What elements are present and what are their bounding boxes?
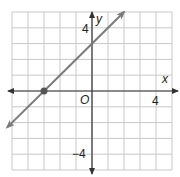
line-segment-lower (7, 70, 65, 128)
x-intercept-point (41, 88, 48, 95)
plotted-line (7, 12, 124, 127)
line-segment-upper (66, 12, 124, 70)
x-axis-label: x (161, 72, 169, 86)
y-tick-label-4: 4 (82, 22, 89, 36)
y-tick-label-neg4: −4 (72, 147, 86, 161)
plotted-points (41, 88, 48, 95)
x-tick-label-4: 4 (152, 94, 159, 108)
origin-label: O (80, 93, 89, 107)
y-axis-label: y (95, 12, 103, 26)
axes (8, 12, 178, 174)
coordinate-plane: x y O 4 4 −4 (0, 0, 180, 177)
